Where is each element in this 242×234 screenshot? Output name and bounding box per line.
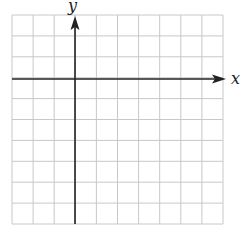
y-axis-label: y: [67, 0, 78, 15]
grid: [12, 15, 223, 224]
coordinate-plane: x y: [0, 0, 242, 234]
x-axis: [12, 75, 226, 84]
x-axis-label: x: [231, 69, 240, 88]
